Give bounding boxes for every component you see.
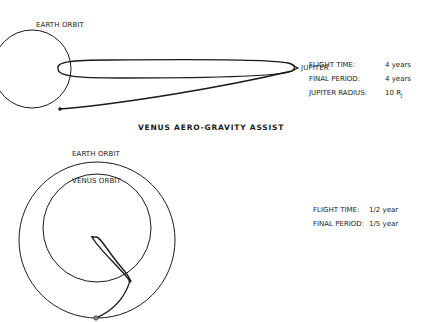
stat-row-flight-time: FLIGHT TIME: 1/2 year bbox=[313, 203, 398, 217]
venus-assist-title: VENUS AERO-GRAVITY ASSIST bbox=[138, 124, 284, 132]
earth-jupiter-transfer-trajectory bbox=[60, 71, 292, 109]
stat-value: 1/5 year bbox=[369, 217, 398, 231]
top-stats-panel: FLIGHT TIME: 4 years FINAL PERIOD: 4 yea… bbox=[309, 58, 411, 102]
trajectory-diagrams bbox=[0, 0, 430, 322]
stat-value: 4 years bbox=[385, 72, 411, 86]
bottom-stats-panel: FLIGHT TIME: 1/2 year FINAL PERIOD: 1/5 … bbox=[313, 203, 398, 231]
venus-orbit-circle bbox=[43, 174, 151, 282]
bottom-earth-orbit-circle bbox=[19, 162, 175, 318]
jupiter-loop-trajectory bbox=[58, 59, 295, 78]
stat-value: 10 RJ bbox=[385, 86, 402, 102]
venus-encounter-dot bbox=[128, 279, 131, 282]
top-earth-orbit-circle bbox=[0, 30, 71, 108]
top-earth-orbit-label: EARTH ORBIT bbox=[36, 22, 84, 29]
stat-value: 4 years bbox=[385, 58, 411, 72]
stat-label: FLIGHT TIME: bbox=[309, 58, 385, 72]
bottom-launch-point-dot bbox=[94, 316, 98, 320]
stat-row-final-period: FINAL PERIOD: 4 years bbox=[309, 72, 411, 86]
venus-loop-trajectory bbox=[92, 237, 130, 281]
stat-value-subscript: J bbox=[401, 92, 402, 98]
stat-label: FINAL PERIOD: bbox=[309, 72, 385, 86]
top-launch-point-dot bbox=[58, 107, 62, 111]
stat-label: FINAL PERIOD: bbox=[313, 217, 369, 231]
stat-label: JUPITER RADIUS: bbox=[309, 86, 385, 102]
venus-orbit-label: VENUS ORBIT bbox=[72, 178, 121, 185]
stat-label: FLIGHT TIME: bbox=[313, 203, 369, 217]
stat-value: 1/2 year bbox=[369, 203, 398, 217]
stat-row-jupiter-radius: JUPITER RADIUS: 10 RJ bbox=[309, 86, 411, 102]
stat-row-flight-time: FLIGHT TIME: 4 years bbox=[309, 58, 411, 72]
stat-value-main: 10 R bbox=[385, 89, 401, 97]
bottom-earth-orbit-label: EARTH ORBIT bbox=[72, 151, 120, 158]
stat-row-final-period: FINAL PERIOD: 1/5 year bbox=[313, 217, 398, 231]
